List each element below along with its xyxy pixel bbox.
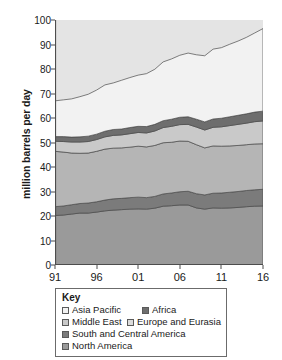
y-axis-tick-mark (51, 240, 55, 241)
y-axis-tick-mark (51, 20, 55, 21)
legend-swatch-icon (62, 319, 69, 326)
legend-item-europe-and-eurasia[interactable]: Europe and Eurasia (127, 316, 221, 328)
legend-item-asia-pacific[interactable]: Asia Pacific (62, 304, 142, 316)
legend-item-africa[interactable]: Africa (142, 304, 176, 316)
y-axis-tick-mark (51, 44, 55, 45)
legend-label: Europe and Eurasia (137, 316, 221, 328)
y-axis-tick-mark (51, 167, 55, 168)
legend-row: Middle East Europe and Eurasia (62, 316, 221, 328)
y-axis-tick-mark (51, 216, 55, 217)
stacked-area-plot (55, 20, 263, 265)
y-axis-tick-label: 10 (40, 235, 51, 246)
y-axis-tick-label: 30 (40, 186, 51, 197)
y-axis-tick-label: 80 (40, 64, 51, 75)
y-axis-tick-label: 70 (40, 88, 51, 99)
legend-swatch-icon (62, 331, 69, 338)
y-axis-tick-mark (51, 93, 55, 94)
legend-swatch-icon (62, 343, 69, 350)
x-axis-tick-mark (221, 265, 222, 269)
legend-swatch-icon (142, 307, 149, 314)
legend-swatch-icon (127, 319, 134, 326)
y-axis-tick-mark (51, 142, 55, 143)
area-series-north-america (55, 205, 263, 265)
y-axis-title: million barrels per day (20, 44, 32, 244)
legend-title: Key (62, 292, 221, 304)
x-axis-tick-label: 01 (132, 271, 144, 283)
plot-area: 0102030405060708090100919601061116 (55, 20, 263, 265)
legend-label: South and Central America (72, 328, 186, 340)
legend-item-south-and-central-america[interactable]: South and Central America (62, 328, 186, 340)
legend-swatch-icon (62, 307, 69, 314)
legend-label: Africa (152, 304, 176, 316)
y-axis-tick-label: 40 (40, 162, 51, 173)
x-axis-tick-mark (55, 265, 56, 269)
y-axis-tick-label: 20 (40, 211, 51, 222)
x-axis-tick-mark (138, 265, 139, 269)
x-axis-tick-mark (263, 265, 264, 269)
x-axis-tick-mark (96, 265, 97, 269)
x-axis-tick-label: 91 (49, 271, 61, 283)
legend-item-middle-east[interactable]: Middle East (62, 316, 127, 328)
legend-row: Asia Pacific Africa (62, 304, 221, 316)
x-axis-tick-mark (179, 265, 180, 269)
legend-label: North America (72, 340, 132, 352)
x-axis-tick-label: 96 (90, 271, 102, 283)
y-axis-tick-mark (51, 69, 55, 70)
y-axis-tick-mark (51, 191, 55, 192)
y-axis-tick-mark (51, 118, 55, 119)
x-axis-tick-label: 16 (257, 271, 269, 283)
legend-row: South and Central America (62, 328, 221, 340)
y-axis-tick-label: 60 (40, 113, 51, 124)
legend-item-north-america[interactable]: North America (62, 340, 132, 352)
x-axis-tick-label: 06 (174, 271, 186, 283)
y-axis-tick-label: 50 (40, 137, 51, 148)
y-axis-tick-label: 90 (40, 39, 51, 50)
legend-box: Key Asia Pacific Africa Middle East Euro… (55, 288, 227, 357)
x-axis-tick-label: 11 (216, 271, 227, 283)
legend-label: Middle East (72, 316, 122, 328)
chart-figure: million barrels per day 0102030405060708… (0, 0, 282, 360)
y-axis-tick-label: 100 (34, 15, 51, 26)
legend-label: Asia Pacific (72, 304, 121, 316)
legend-row: North America (62, 340, 221, 352)
